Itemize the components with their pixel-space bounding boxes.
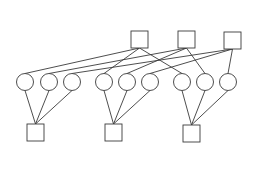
bottom-square-node-B1 (27, 124, 44, 141)
edge-T2-C2 (49, 48, 187, 74)
circle-node-C6 (142, 74, 159, 91)
edge-C6-B2 (114, 91, 151, 125)
top-square-node-T2 (178, 31, 195, 48)
circle-node-C3 (64, 74, 81, 91)
circle-node-C1 (17, 74, 34, 91)
circle-node-C7 (174, 74, 191, 91)
edge-T3-C9 (228, 49, 233, 74)
circle-node-C2 (41, 74, 58, 91)
edge-T1-C7 (140, 48, 183, 74)
top-square-node-T1 (131, 31, 148, 48)
edge-C9-B3 (192, 91, 229, 126)
circle-node-C4 (96, 74, 113, 91)
bottom-square-node-B2 (105, 124, 122, 141)
bipartite-graph-diagram (0, 0, 261, 179)
top-square-node-T3 (224, 32, 241, 49)
edge-C8-B3 (192, 91, 206, 126)
edge-C1-B1 (25, 91, 36, 125)
edge-C5-B2 (114, 91, 128, 125)
edge-C3-B1 (36, 91, 73, 125)
circle-node-C5 (119, 74, 136, 91)
edge-C4-B2 (104, 91, 114, 125)
edge-T3-C3 (72, 49, 233, 74)
circle-node-C8 (197, 74, 214, 91)
bottom-square-node-B3 (183, 125, 200, 142)
edge-C2-B1 (36, 91, 50, 125)
edge-C7-B3 (182, 91, 192, 126)
circle-node-C9 (220, 74, 237, 91)
edge-T2-C8 (187, 48, 206, 74)
nodes-layer (17, 31, 242, 142)
